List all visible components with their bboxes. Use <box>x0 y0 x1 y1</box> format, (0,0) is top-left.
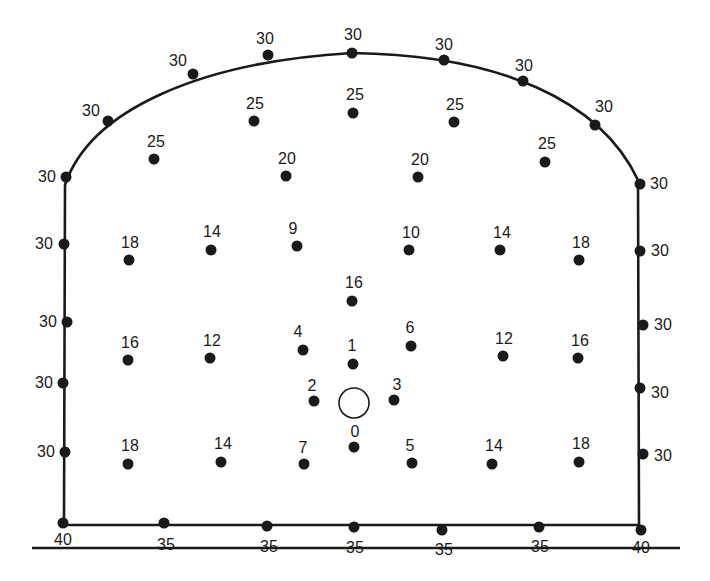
delay-number-label: 30 <box>39 313 57 330</box>
delay-number-label: 25 <box>147 133 165 150</box>
blast-hole <box>487 459 498 470</box>
blast-hole <box>636 525 647 536</box>
blast-hole <box>573 353 584 364</box>
blast-hole <box>349 522 360 533</box>
delay-number-label: 30 <box>82 102 100 119</box>
blast-hole <box>124 255 135 266</box>
delay-number-label: 14 <box>214 435 232 452</box>
delay-number-label: 30 <box>595 98 613 115</box>
blast-hole <box>349 442 360 453</box>
blast-hole <box>216 457 227 468</box>
blast-hole <box>149 154 160 165</box>
delay-number-label: 20 <box>278 150 296 167</box>
blast-hole <box>389 395 400 406</box>
delay-number-label: 14 <box>485 437 503 454</box>
delay-number-label: 35 <box>435 541 453 558</box>
delay-number-label: 3 <box>393 376 402 393</box>
blast-hole <box>404 245 415 256</box>
empty-relief-hole <box>339 388 369 418</box>
delay-number-label: 30 <box>169 52 187 69</box>
blast-hole <box>518 76 529 87</box>
delay-number-label: 40 <box>54 531 72 548</box>
blast-hole <box>449 117 460 128</box>
delay-labels-group: 3030303030303030303030303030303030403535… <box>35 26 672 558</box>
blast-hole <box>59 239 70 250</box>
blast-hole <box>159 518 170 529</box>
blast-hole <box>58 518 69 529</box>
blast-hole <box>281 171 292 182</box>
blast-hole <box>638 449 649 460</box>
delay-number-label: 25 <box>538 135 556 152</box>
blast-hole <box>206 245 217 256</box>
blast-hole <box>439 55 450 66</box>
blast-hole <box>298 345 309 356</box>
blast-hole <box>498 351 509 362</box>
blast-hole <box>574 255 585 266</box>
delay-number-label: 12 <box>203 332 221 349</box>
blast-hole <box>348 108 359 119</box>
delay-number-label: 5 <box>406 437 415 454</box>
delay-number-label: 16 <box>121 334 139 351</box>
delay-number-label: 18 <box>121 234 139 251</box>
delay-number-label: 30 <box>37 443 55 460</box>
blast-hole <box>347 296 358 307</box>
delay-number-label: 30 <box>651 242 669 259</box>
delay-number-label: 30 <box>35 374 53 391</box>
delay-number-label: 0 <box>351 423 360 440</box>
blast-hole <box>635 179 646 190</box>
blast-hole <box>347 48 358 59</box>
blast-hole <box>638 320 649 331</box>
delay-number-label: 10 <box>402 224 420 241</box>
blast-hole <box>60 447 71 458</box>
blast-hole <box>262 521 273 532</box>
blast-hole <box>205 353 216 364</box>
tunnel-blast-pattern-diagram: 3030303030303030303030303030303030403535… <box>0 0 710 581</box>
blast-hole <box>437 525 448 536</box>
delay-number-label: 30 <box>654 316 672 333</box>
delay-number-label: 12 <box>495 330 513 347</box>
delay-number-label: 40 <box>632 539 650 556</box>
delay-number-label: 25 <box>446 96 464 113</box>
delay-number-label: 18 <box>121 437 139 454</box>
delay-number-label: 30 <box>344 26 362 43</box>
blast-hole <box>309 396 320 407</box>
delay-number-label: 2 <box>308 377 317 394</box>
delay-number-label: 25 <box>346 86 364 103</box>
delay-number-label: 4 <box>294 323 303 340</box>
blast-hole <box>61 172 72 183</box>
blast-hole <box>407 458 418 469</box>
delay-number-label: 30 <box>654 447 672 464</box>
delay-number-label: 35 <box>531 538 549 555</box>
delay-number-label: 20 <box>411 151 429 168</box>
blast-hole <box>58 378 69 389</box>
delay-number-label: 35 <box>157 536 175 553</box>
blast-hole <box>574 457 585 468</box>
delay-number-label: 14 <box>203 223 221 240</box>
delay-number-label: 30 <box>35 235 53 252</box>
blast-hole <box>123 459 134 470</box>
delay-number-label: 30 <box>650 175 668 192</box>
delay-number-label: 9 <box>289 220 298 237</box>
delay-number-label: 16 <box>345 274 363 291</box>
blast-hole <box>348 359 359 370</box>
delay-number-label: 18 <box>572 234 590 251</box>
delay-number-label: 30 <box>38 168 56 185</box>
blast-hole <box>103 116 114 127</box>
blast-hole <box>123 355 134 366</box>
delay-number-label: 30 <box>256 30 274 47</box>
delay-number-label: 7 <box>299 439 308 456</box>
delay-number-label: 25 <box>246 95 264 112</box>
delay-number-label: 30 <box>515 57 533 74</box>
blast-hole <box>292 241 303 252</box>
blast-holes-group <box>58 48 649 536</box>
delay-number-label: 1 <box>348 337 357 354</box>
blast-hole <box>635 383 646 394</box>
delay-number-label: 35 <box>260 538 278 555</box>
blast-hole <box>534 522 545 533</box>
blast-hole <box>188 69 199 80</box>
delay-number-label: 30 <box>435 36 453 53</box>
blast-hole <box>299 459 310 470</box>
delay-number-label: 6 <box>406 319 415 336</box>
blast-hole <box>249 116 260 127</box>
blast-hole <box>263 50 274 61</box>
